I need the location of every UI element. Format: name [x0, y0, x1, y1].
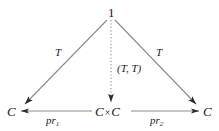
projection-1-base: pr	[46, 114, 56, 126]
edge-label-projection-1: pr1	[46, 115, 59, 126]
node-right-C: C	[203, 105, 212, 118]
edge-label-projection-2: pr2	[150, 115, 163, 126]
node-left-C: C	[7, 105, 16, 118]
product-right-factor: C	[111, 104, 120, 119]
product-left-factor: C	[95, 104, 104, 119]
edge-label-pairing-T-T: (T, T)	[117, 63, 141, 74]
edge-apex-to-left-C	[25, 20, 107, 104]
projection-1-subscript: 1	[56, 120, 60, 128]
commutative-diagram: 1 C C C×C T T (T, T) pr1 pr2	[0, 0, 219, 131]
edge-label-left-T: T	[55, 47, 61, 58]
edge-label-right-T: T	[156, 47, 162, 58]
node-apex-terminal-object: 1	[108, 6, 115, 19]
projection-2-base: pr	[150, 114, 160, 126]
projection-2-subscript: 2	[160, 120, 164, 128]
node-product-C-times-C: C×C	[95, 105, 120, 118]
